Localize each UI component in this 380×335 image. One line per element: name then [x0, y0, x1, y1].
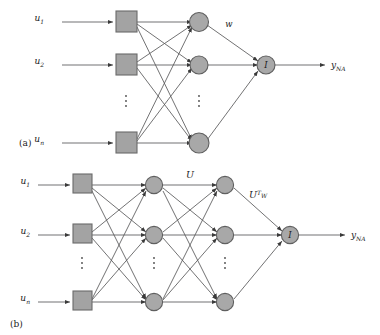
hidden-node-a-1[interactable]: [190, 13, 209, 32]
hidden-node-a-3[interactable]: [189, 133, 209, 153]
hidden1-node-b-3[interactable]: [145, 293, 162, 310]
panel-caption-a: (a): [19, 138, 31, 148]
neural-network-diagram: I u1 u2 un w yNA (a): [0, 0, 380, 335]
weight-label-w: w: [225, 19, 233, 29]
output-node-a-label: I: [263, 60, 268, 70]
hidden2-node-b-3[interactable]: [216, 293, 233, 310]
hidden1-node-b-1[interactable]: [145, 176, 162, 193]
input-square-u1[interactable]: [116, 11, 137, 32]
input-square-un[interactable]: [116, 132, 137, 153]
input-square-b-u2[interactable]: [73, 224, 92, 243]
input-square-b-u1[interactable]: [73, 174, 92, 193]
input-square-u2[interactable]: [116, 54, 137, 75]
hidden2-node-b-1[interactable]: [216, 176, 233, 193]
weight-label-U: U: [186, 169, 195, 180]
panel-caption-b: (b): [10, 319, 23, 329]
canvas-background: [0, 0, 380, 335]
input-square-b-un[interactable]: [73, 291, 92, 310]
output-node-b-label: I: [287, 230, 292, 240]
hidden-node-a-2[interactable]: [190, 56, 208, 74]
hidden2-node-b-2[interactable]: [216, 226, 233, 243]
figure-container: I u1 u2 un w yNA (a): [0, 0, 380, 335]
hidden1-node-b-2[interactable]: [145, 226, 162, 243]
